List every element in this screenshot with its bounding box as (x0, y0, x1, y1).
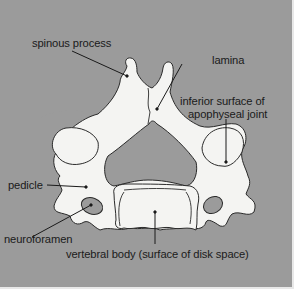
vertebra-diagram: spinous process lamina inferior surface … (0, 0, 292, 287)
label-vertebral-body: vertebral body (surface of disk space) (66, 248, 249, 261)
label-neuroforamen: neuroforamen (4, 233, 72, 246)
label-spinous-process: spinous process (32, 37, 111, 50)
left-articular-facet (52, 128, 98, 165)
label-inferior-surface-line1: inferior surface of (180, 95, 265, 108)
label-inferior-surface-line2: apophyseal joint (188, 108, 267, 121)
label-pedicle: pedicle (8, 179, 43, 192)
vertebral-body (114, 184, 199, 230)
label-lamina: lamina (212, 54, 244, 67)
